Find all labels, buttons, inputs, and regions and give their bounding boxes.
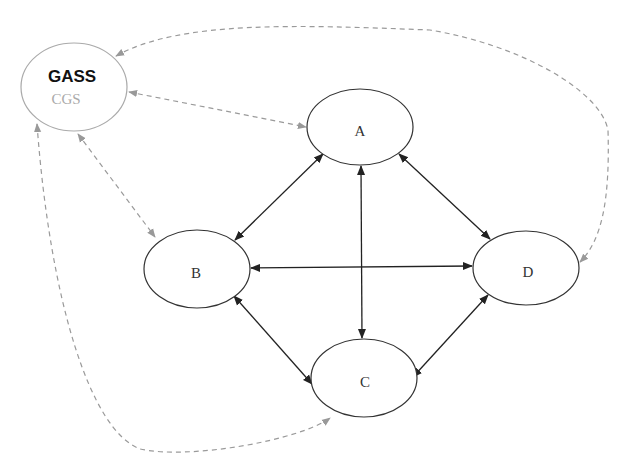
edge-a-d xyxy=(399,154,490,239)
node-gass-sublabel: CGS xyxy=(51,91,80,107)
node-gass: GASS CGS xyxy=(21,43,127,131)
node-d-label: D xyxy=(523,264,534,280)
node-d: D xyxy=(473,231,579,305)
node-c: C xyxy=(311,339,417,417)
node-gass-label: GASS xyxy=(48,67,96,86)
edge-gass-a xyxy=(129,92,306,127)
node-a: A xyxy=(307,89,413,165)
edge-a-b xyxy=(235,154,323,240)
node-a-label: A xyxy=(355,123,366,139)
node-c-label: C xyxy=(360,374,370,390)
graph-svg: GASS CGS A B C D xyxy=(0,0,636,474)
node-b-label: B xyxy=(191,265,201,281)
edge-c-d xyxy=(413,295,488,377)
edge-b-c xyxy=(234,296,312,384)
edge-gass-b xyxy=(78,134,155,237)
node-b: B xyxy=(144,230,250,308)
edge-a-c xyxy=(361,166,362,338)
diagram-canvas: GASS CGS A B C D xyxy=(0,0,636,474)
